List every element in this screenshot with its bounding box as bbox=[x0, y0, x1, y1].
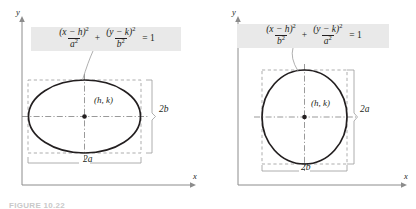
leader-line-left bbox=[83, 51, 94, 80]
equation-equals-left: = 1 bbox=[140, 34, 154, 44]
dimension-label-horizontal-left: 2a bbox=[83, 155, 93, 165]
dimension-tick-vertical-left bbox=[152, 113, 156, 120]
panel-vertical-major-axis: (x − h)2 b2 + (y − k)2 a2 = 1 (h, k) 2a … bbox=[208, 0, 416, 209]
dimension-label-vertical-left: 2b bbox=[159, 105, 169, 115]
term2-denominator-right: a2 bbox=[322, 35, 334, 47]
panel-horizontal-major-axis: (x − h)2 a2 + (y − k)2 b2 = 1 (h, k) 2b … bbox=[0, 0, 208, 209]
fraction-term1-left: (x − h)2 a2 bbox=[57, 28, 91, 50]
equation-equals-right: = 1 bbox=[347, 31, 361, 41]
axis-label-y-right: y bbox=[232, 8, 236, 17]
term2-denominator-exponent-left: 2 bbox=[122, 37, 125, 44]
term2-numerator-exponent-left: 2 bbox=[132, 25, 135, 32]
axis-label-y-left: y bbox=[16, 8, 20, 17]
equation-operator-right: + bbox=[301, 31, 308, 41]
equation-box-left: (x − h)2 a2 + (y − k)2 b2 = 1 bbox=[31, 27, 181, 51]
fraction-term1-right: (x − h)2 b2 bbox=[264, 25, 298, 47]
figure-caption: FIGURE 10.22 bbox=[9, 201, 65, 209]
term2-denominator-exponent-right: 2 bbox=[329, 34, 332, 41]
axis-label-x-right: x bbox=[404, 172, 408, 181]
term1-numerator-exponent-left: 2 bbox=[86, 25, 89, 32]
leader-line-right bbox=[292, 48, 298, 71]
fraction-term2-right: (y − k)2 a2 bbox=[311, 25, 344, 47]
figure-container: (x − h)2 a2 + (y − k)2 b2 = 1 (h, k) 2b … bbox=[0, 0, 416, 209]
equation-box-right: (x − h)2 b2 + (y − k)2 a2 = 1 bbox=[237, 24, 389, 48]
equation-operator-left: + bbox=[94, 34, 101, 44]
dimension-label-horizontal-right: 2b bbox=[301, 163, 311, 173]
fraction-term2-left: (y − k)2 b2 bbox=[104, 28, 137, 50]
term2-numerator-exponent-right: 2 bbox=[339, 22, 342, 29]
term1-denominator-right: b2 bbox=[275, 35, 287, 47]
center-point-left bbox=[82, 114, 87, 119]
center-label-right: (h, k) bbox=[311, 99, 330, 108]
center-label-left: (h, k) bbox=[94, 96, 113, 105]
dimension-label-vertical-right: 2a bbox=[360, 105, 370, 115]
center-point-right bbox=[302, 115, 307, 120]
term1-denominator-left: a2 bbox=[68, 38, 80, 50]
equation-left: (x − h)2 a2 + (y − k)2 b2 = 1 bbox=[57, 28, 155, 50]
term2-denominator-left: b2 bbox=[115, 38, 127, 50]
axis-label-x-left: x bbox=[193, 172, 197, 181]
term1-numerator-exponent-right: 2 bbox=[293, 22, 296, 29]
term1-denominator-exponent-right: 2 bbox=[282, 34, 285, 41]
equation-right: (x − h)2 b2 + (y − k)2 a2 = 1 bbox=[264, 25, 362, 47]
term1-denominator-exponent-left: 2 bbox=[75, 37, 78, 44]
